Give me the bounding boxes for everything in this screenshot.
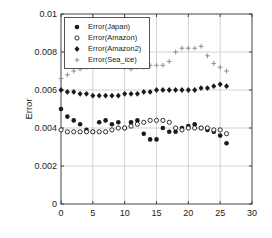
y-tick-label: 0.002 — [34, 161, 57, 171]
filled-diamond-icon — [70, 44, 84, 54]
y-tick-label: 0.01 — [39, 9, 57, 19]
open-circle-icon — [70, 33, 84, 43]
legend-label: Error(Japan) — [88, 22, 130, 31]
legend-item: Error(Amazon) — [70, 32, 141, 43]
x-tick-label: 30 — [247, 208, 257, 218]
x-tick-label: 0 — [58, 208, 63, 218]
x-tick-label: 10 — [120, 208, 130, 218]
legend-label: Error(Sea_ice) — [88, 55, 137, 64]
y-tick-label: 0.006 — [34, 85, 57, 95]
x-tick-label: 25 — [215, 208, 225, 218]
chart-figure: 05101520253000.0020.0040.0060.0080.01 Er… — [0, 0, 272, 238]
series-error-japan- — [59, 107, 229, 146]
legend-item: Error(Amazon2) — [70, 43, 141, 54]
filled-circle-icon — [70, 22, 84, 32]
plus-icon — [70, 55, 84, 65]
legend-label: Error(Amazon) — [88, 33, 137, 42]
legend-label: Error(Amazon2) — [88, 44, 141, 53]
x-tick-label: 5 — [90, 208, 95, 218]
y-axis-title: Error — [23, 98, 34, 119]
legend-item: Error(Sea_ice) — [70, 54, 141, 65]
legend-item: Error(Japan) — [70, 21, 141, 32]
x-tick-label: 15 — [151, 208, 161, 218]
y-tick-label: 0.004 — [34, 123, 57, 133]
legend: Error(Japan)Error(Amazon)Error(Amazon2)E… — [64, 17, 150, 69]
x-tick-label: 20 — [183, 208, 193, 218]
y-tick-label: 0 — [52, 199, 57, 209]
y-tick-label: 0.008 — [34, 47, 57, 57]
